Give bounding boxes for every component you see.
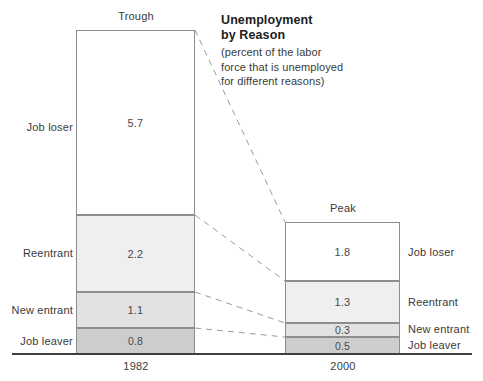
unemployment-by-reason-chart: Unemployment by Reason (percent of the l… — [0, 0, 483, 381]
bar-peak-segment-reentrant: 1.3 — [285, 281, 400, 323]
chart-title-line2: by Reason — [221, 28, 421, 43]
left-label-job-leaver: Job leaver — [0, 335, 73, 347]
bar-trough-segment-new-entrant: 1.1 — [76, 292, 195, 328]
connector-job-leaver-top — [195, 328, 285, 337]
bar-trough-segment-job-leaver: 0.8 — [76, 328, 195, 354]
chart-title-block: Unemployment by Reason (percent of the l… — [221, 13, 421, 89]
bar-peak-segment-job-leaver: 0.5 — [285, 337, 400, 354]
right-label-reentrant: Reentrant — [408, 296, 458, 308]
bar-trough-segment-reentrant: 2.2 — [76, 215, 195, 292]
right-label-job-loser: Job loser — [408, 246, 454, 258]
chart-subtitle: (percent of the labor force that is unem… — [221, 45, 421, 89]
chart-title-line1: Unemployment — [221, 13, 421, 28]
left-label-reentrant: Reentrant — [0, 247, 73, 259]
bar-peak-segment-new-entrant: 0.3 — [285, 323, 400, 337]
connector-reentrant-top — [195, 215, 285, 281]
connector-new-entrant-top — [195, 292, 285, 323]
right-label-job-leaver: Job leaver — [408, 339, 461, 351]
left-label-new-entrant: New entrant — [0, 304, 73, 316]
bar-trough-segment-job-loser: 5.7 — [76, 30, 195, 215]
left-label-job-loser: Job loser — [0, 121, 73, 133]
column-header-trough: Trough — [96, 10, 176, 22]
column-header-peak: Peak — [303, 202, 383, 214]
bar-peak-segment-job-loser: 1.8 — [285, 222, 400, 281]
right-label-new-entrant: New entrant — [408, 323, 470, 335]
chart-subtitle-line3: for different reasons) — [221, 74, 421, 89]
x-tick-2000: 2000 — [303, 360, 383, 372]
baseline-axis — [12, 353, 472, 355]
chart-subtitle-line1: (percent of the labor — [221, 45, 421, 60]
x-tick-1982: 1982 — [96, 360, 176, 372]
chart-subtitle-line2: force that is unemployed — [221, 60, 421, 75]
